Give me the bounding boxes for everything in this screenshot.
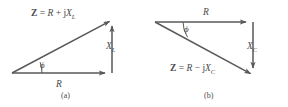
diagram-a-resistance-label: R <box>56 80 62 90</box>
diagram-a-impedance-label: Z = R + jXL <box>31 9 76 20</box>
diagram-b-vertical-reactance-label: XC <box>247 42 257 53</box>
diagram-b-phase-angle-label: ϕ <box>184 25 189 34</box>
diagram-b-impedance-operator: − <box>192 63 202 73</box>
diagram-b-caption: (b) <box>204 92 213 100</box>
diagram-b-impedance-label: Z = R − jXC <box>170 64 215 75</box>
diagram-a-caption: (a) <box>61 92 70 100</box>
diagram-b-impedance-equals: = <box>176 63 186 73</box>
diagram-a-impedance-equals: = <box>37 8 47 18</box>
impedance-triangle-figure: Z = R + jXL XL R ϕ (a) Z = R − jXC R XC … <box>0 0 288 107</box>
diagram-b-reactance-subscript: C <box>211 68 215 75</box>
diagram-a-impedance-vector <box>12 21 110 73</box>
diagram-a-vertical-reactance-label: XL <box>106 42 115 53</box>
diagram-a-vectors <box>12 21 112 73</box>
diagram-b-resistance-label: R <box>203 8 209 18</box>
diagram-a-impedance-operator: + <box>53 8 63 18</box>
diagram-a-phase-angle-label: ϕ <box>40 61 45 70</box>
diagram-a-reactance-subscript: L <box>72 13 76 20</box>
diagram-a-vertical-reactance-subscript: L <box>112 46 116 53</box>
diagram-b-vertical-reactance-subscript: C <box>253 46 257 53</box>
